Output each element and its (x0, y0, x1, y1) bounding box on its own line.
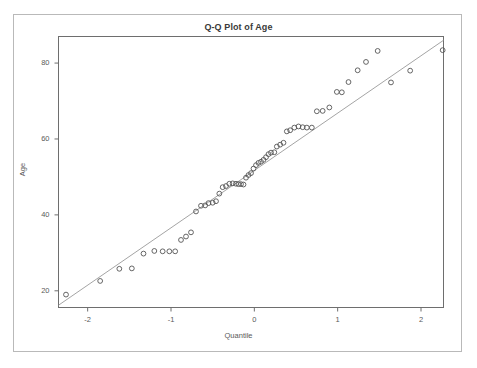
scatter-point (141, 251, 146, 256)
y-axis-tick-label: 60 (26, 134, 50, 143)
scatter-point (167, 249, 172, 254)
scatter-point (314, 109, 319, 114)
y-axis-tick-label: 40 (26, 210, 50, 219)
scatter-point (309, 125, 314, 130)
scatter-point (152, 249, 157, 254)
scatter-point (364, 60, 369, 65)
x-axis-tick-label: -2 (76, 315, 100, 324)
scatter-point (320, 108, 325, 113)
scatter-point (327, 105, 332, 110)
y-axis-tick-label: 80 (26, 58, 50, 67)
y-axis-label: Age (18, 140, 27, 200)
scatter-point (117, 266, 122, 271)
scatter-point (64, 292, 69, 297)
scatter-point (346, 80, 351, 85)
scatter-point (173, 249, 178, 254)
scatter-point (179, 238, 184, 243)
plot-frame-rect (59, 37, 444, 308)
x-axis-tick-label: 1 (326, 315, 350, 324)
x-axis-tick-label: 2 (409, 315, 433, 324)
qq-plot-canvas (0, 0, 477, 368)
reference-line (59, 40, 444, 305)
scatter-point (375, 49, 380, 54)
scatter-point (189, 230, 194, 235)
plot-frame (59, 37, 444, 308)
data-points (64, 48, 445, 297)
axis-ticks (55, 63, 422, 311)
scatter-point (251, 166, 256, 171)
scatter-point (339, 90, 344, 95)
screenshot-page: Q-Q Plot of Age 20406080 -2-1012 Quantil… (0, 0, 477, 368)
scatter-point (160, 249, 165, 254)
x-axis-tick-label: 0 (242, 315, 266, 324)
qq-plot-figure: Q-Q Plot of Age 20406080 -2-1012 Quantil… (0, 0, 477, 368)
scatter-point (129, 266, 134, 271)
scatter-point (184, 234, 189, 239)
x-axis-label: Quantile (0, 331, 477, 340)
x-axis-tick-label: -1 (159, 315, 183, 324)
reference-line-segment (59, 40, 444, 305)
scatter-point (272, 150, 277, 155)
scatter-point (355, 68, 360, 73)
scatter-point (334, 90, 339, 95)
scatter-point (440, 48, 445, 53)
scatter-point (389, 80, 394, 85)
scatter-point (408, 68, 413, 73)
scatter-point (98, 279, 103, 284)
y-axis-tick-label: 20 (26, 286, 50, 295)
